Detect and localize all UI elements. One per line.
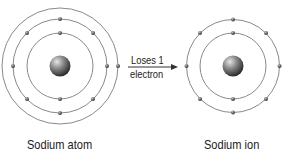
sodium-atom-label: Sodium atom: [27, 137, 92, 152]
sodium-ion-label: Sodium ion: [204, 137, 259, 152]
sodium-ion: [185, 18, 282, 115]
arrow-label-bottom: electron: [130, 68, 163, 80]
sodium-atom: [2, 8, 120, 124]
arrow-label-top: Loses 1: [131, 54, 164, 66]
ion-nucleus: [223, 56, 244, 77]
atom-nucleus: [50, 56, 71, 77]
